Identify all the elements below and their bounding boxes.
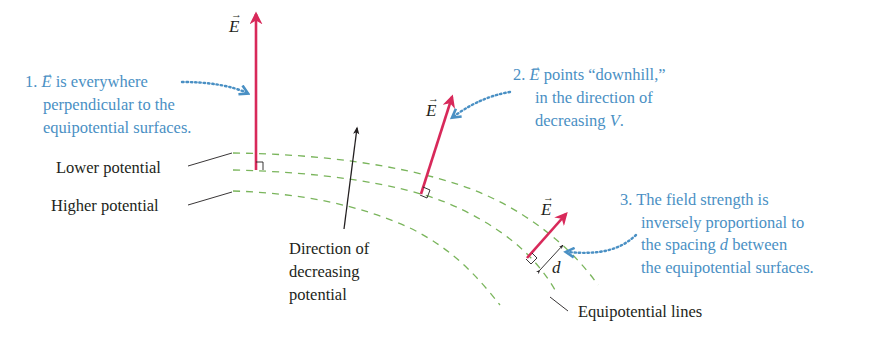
direction-arrow	[344, 128, 357, 229]
note-2: 2. →E points “downhill,” in the directio…	[513, 63, 666, 132]
field-vector-2-label: →E	[426, 101, 436, 121]
note-2-pointer	[453, 92, 510, 117]
lower-potential-label: Lower potential	[56, 158, 161, 178]
field-vector-3	[527, 214, 566, 258]
note-1: 1. →E is everywhere perpendicular to the…	[25, 70, 191, 139]
higher-potential-label: Higher potential	[51, 196, 159, 216]
spacing-label: d	[552, 258, 561, 278]
equipotential-leader	[550, 297, 568, 311]
higher-potential-leader	[188, 192, 232, 205]
note-1-pointer	[182, 82, 247, 93]
equipotential-lines	[233, 153, 598, 305]
field-vector-3-label: →E	[541, 200, 551, 220]
lower-potential-leader	[188, 153, 232, 166]
equipotential-line-2	[233, 170, 555, 290]
note-3: 3. The field strength is inversely propo…	[620, 189, 814, 279]
field-vector-1-label: →E	[229, 17, 239, 37]
direction-label: Direction of decreasing potential	[289, 237, 369, 306]
equipotential-lines-label: Equipotential lines	[578, 302, 702, 322]
